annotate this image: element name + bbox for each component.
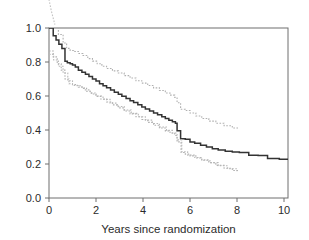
survival-plot-figure: 02468100.00.20.40.60.81.0 Years since ra… [0,0,309,240]
y-tick-label: 0.8 [26,56,41,68]
y-tick-label: 1.0 [26,22,41,34]
x-tick-label: 6 [187,204,193,216]
x-tick-label: 2 [93,204,99,216]
x-tick-label: 4 [140,204,146,216]
y-tick-label: 0.6 [26,90,41,102]
x-tick-label: 10 [278,204,290,216]
x-tick-label: 8 [234,204,240,216]
y-tick-label: 0.2 [26,158,41,170]
y-tick-label: 0.0 [26,192,41,204]
plot-canvas: 02468100.00.20.40.60.81.0 Years since ra… [0,0,309,240]
x-tick-label: 0 [46,204,52,216]
x-axis-title: Years since randomization [101,223,235,235]
y-tick-label: 0.4 [26,124,41,136]
